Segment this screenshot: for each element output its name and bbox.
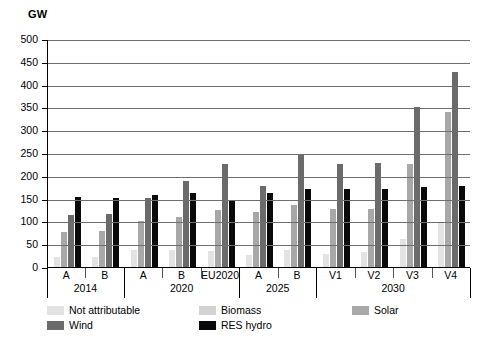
legend-item: Solar <box>352 304 399 316</box>
bar <box>54 257 60 267</box>
y-tick-label: 100 <box>0 215 38 227</box>
bar <box>190 193 196 267</box>
x-tick-label: V2 <box>355 269 393 281</box>
bar <box>407 164 413 267</box>
bar <box>131 250 137 267</box>
gridline <box>48 154 470 155</box>
chart-legend: Not attributableBiomassSolarWindRES hydr… <box>47 304 477 334</box>
x-tick-label: EU2020 <box>201 269 239 281</box>
bar <box>145 198 151 267</box>
legend-item: Not attributable <box>47 304 140 316</box>
y-axis-unit-label: GW <box>28 8 47 20</box>
plot-area <box>47 40 470 268</box>
period-divider <box>470 268 471 298</box>
legend-label: Wind <box>69 319 93 331</box>
x-tick-mark <box>201 268 202 278</box>
bar <box>459 186 465 267</box>
y-tick-mark <box>42 40 47 41</box>
gridline <box>48 63 470 64</box>
bar <box>229 200 235 267</box>
y-tick-label: 250 <box>0 147 38 159</box>
legend-swatch <box>199 306 216 315</box>
legend-label: Not attributable <box>69 304 140 316</box>
x-tick-label: V1 <box>316 269 354 281</box>
gridline <box>48 108 470 109</box>
legend-swatch <box>47 321 64 330</box>
y-tick-mark <box>42 131 47 132</box>
y-tick-mark <box>42 108 47 109</box>
y-tick-mark <box>42 86 47 87</box>
bar <box>75 197 81 267</box>
y-tick-label: 500 <box>0 33 38 45</box>
x-tick-mark <box>393 268 394 278</box>
gridline <box>48 200 470 201</box>
legend-swatch <box>352 306 369 315</box>
bar <box>284 250 290 267</box>
x-tick-label: V4 <box>432 269 470 281</box>
bar <box>260 186 266 267</box>
y-tick-mark <box>42 177 47 178</box>
bar <box>337 164 343 267</box>
x-tick-label: B <box>85 269 123 281</box>
y-tick-mark <box>42 222 47 223</box>
y-tick-label: 0 <box>0 261 38 273</box>
x-tick-label: B <box>278 269 316 281</box>
legend-label: Solar <box>374 304 399 316</box>
x-tick-mark <box>162 268 163 278</box>
bar <box>344 189 350 267</box>
y-tick-mark <box>42 63 47 64</box>
legend-swatch <box>199 321 216 330</box>
x-tick-label: A <box>239 269 277 281</box>
bar <box>323 254 329 267</box>
x-tick-mark <box>355 268 356 278</box>
bar <box>215 210 221 267</box>
y-tick-label: 150 <box>0 193 38 205</box>
legend-item: Biomass <box>199 304 261 316</box>
bar <box>99 231 105 267</box>
x-tick-mark <box>432 268 433 278</box>
bar <box>152 195 158 267</box>
x-tick-label: V3 <box>393 269 431 281</box>
x-tick-mark <box>85 268 86 278</box>
bar <box>267 193 273 267</box>
bar <box>445 112 451 267</box>
chart-root: GW 050100150200250300350400450500 ABABEU… <box>0 0 484 338</box>
bar <box>253 212 259 267</box>
gridline <box>48 177 470 178</box>
bar <box>61 232 67 267</box>
legend-label: Biomass <box>221 304 261 316</box>
x-tick-label: A <box>124 269 162 281</box>
bar <box>183 181 189 267</box>
bar <box>291 205 297 267</box>
legend-label: RES hydro <box>221 319 272 331</box>
y-tick-mark <box>42 200 47 201</box>
x-tick-label: A <box>47 269 85 281</box>
x-tick-mark <box>278 268 279 278</box>
gridline <box>48 131 470 132</box>
gridline <box>48 40 470 41</box>
legend-swatch <box>47 306 64 315</box>
bar <box>361 252 367 267</box>
y-tick-label: 300 <box>0 124 38 136</box>
period-label: 2020 <box>124 282 239 294</box>
legend-item: Wind <box>47 319 93 331</box>
bar <box>222 164 228 267</box>
y-tick-label: 200 <box>0 170 38 182</box>
gridline <box>48 245 470 246</box>
bar <box>452 72 458 267</box>
bar <box>208 251 214 267</box>
y-tick-label: 350 <box>0 101 38 113</box>
bar <box>176 217 182 267</box>
gridline <box>48 86 470 87</box>
bar <box>375 163 381 267</box>
period-label: 2025 <box>239 282 316 294</box>
period-label: 2014 <box>47 282 124 294</box>
x-tick-label: B <box>162 269 200 281</box>
period-label: 2030 <box>316 282 470 294</box>
y-tick-label: 400 <box>0 79 38 91</box>
bar <box>400 239 406 267</box>
y-tick-label: 50 <box>0 238 38 250</box>
legend-item: RES hydro <box>199 319 272 331</box>
gridline <box>48 222 470 223</box>
bar <box>246 255 252 267</box>
